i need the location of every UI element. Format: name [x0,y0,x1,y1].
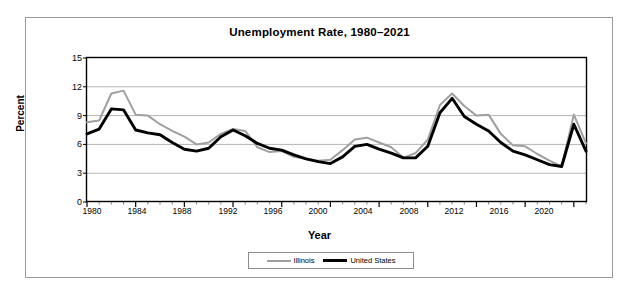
axis-ticks [83,58,586,207]
legend-swatch-illinois-icon [267,260,291,262]
chart-legend: Illinois United States [248,252,414,269]
legend-entry-united-states: United States [323,256,395,265]
legend-entry-illinois: Illinois [267,256,315,265]
series-line-illinois [87,91,586,167]
plot-area [0,0,639,294]
legend-label-united-states: United States [350,256,395,265]
x-axis-title: Year [0,229,639,241]
legend-label-illinois: Illinois [294,256,315,265]
series-line-united-states [87,98,586,166]
legend-swatch-united-states-icon [323,259,347,263]
plot-frame [87,58,587,202]
chart-figure: Unemployment Rate, 1980–2021 Percent 15 … [0,0,639,294]
